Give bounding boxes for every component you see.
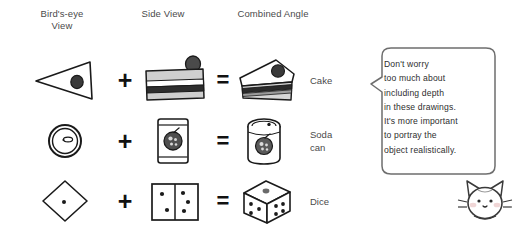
soda-birdseye-cell xyxy=(30,113,110,169)
cat-face-icon xyxy=(456,174,514,230)
speech-bubble-text: Don't worry too much about including dep… xyxy=(384,57,496,157)
soda-label-cell: Soda can xyxy=(310,113,370,169)
die-diamond-topview-icon xyxy=(30,173,110,229)
plus-icon: + xyxy=(107,173,143,229)
plus-icon: + xyxy=(107,52,143,108)
cake-plus-operator: + xyxy=(107,52,143,108)
row-label-dice: Dice xyxy=(310,173,329,229)
die-cube-3d-icon xyxy=(232,173,312,229)
illustration-canvas: Bird's-eye View Side View Combined Angle… xyxy=(0,0,522,234)
can-lid-topview-icon xyxy=(30,113,110,169)
dice-birdseye-cell xyxy=(30,173,110,229)
can-3d-icon xyxy=(232,113,312,169)
column-header-combined-angle: Combined Angle xyxy=(218,8,328,20)
cake-birdseye-cell xyxy=(30,52,110,108)
cake-triangle-topview-icon xyxy=(30,52,110,108)
dice-plus-operator: + xyxy=(107,173,143,229)
row-dice: + = xyxy=(0,173,360,229)
column-header-birdseye-view: Bird's-eye View xyxy=(17,8,107,32)
plus-icon: + xyxy=(107,113,143,169)
cake-wedge-3d-icon xyxy=(232,52,312,108)
row-soda-can: + = xyxy=(0,113,360,169)
cake-combined-cell xyxy=(232,52,312,108)
soda-combined-cell xyxy=(232,113,312,169)
row-label-soda-can: Soda can xyxy=(310,113,332,169)
speech-bubble: Don't worry too much about including dep… xyxy=(370,46,504,178)
soda-plus-operator: + xyxy=(107,113,143,169)
dice-label-cell: Dice xyxy=(310,173,370,229)
column-header-side-view: Side View xyxy=(118,8,208,20)
cat-mascot xyxy=(456,174,514,230)
row-label-cake: Cake xyxy=(310,52,332,108)
row-cake: + = Cake xyxy=(0,52,360,108)
cake-label-cell: Cake xyxy=(310,52,370,108)
dice-combined-cell xyxy=(232,173,312,229)
